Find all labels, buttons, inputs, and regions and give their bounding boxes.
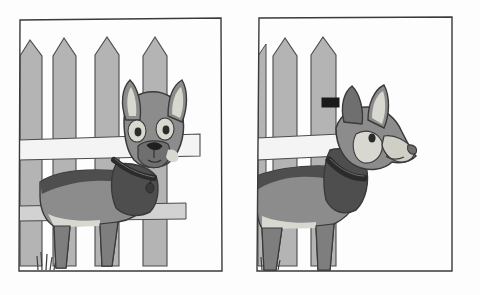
dog-nose — [408, 145, 417, 154]
dog-tag-link — [150, 179, 151, 184]
illustration-canvas: Two-panel illustration of a dog behind a… — [0, 0, 480, 295]
dog-eye — [163, 126, 170, 135]
fence-placard — [322, 98, 339, 107]
dog-collar-tag — [146, 183, 154, 193]
dog-eye — [135, 128, 142, 137]
dog-eye — [368, 133, 375, 142]
dog-cheek-patch — [353, 131, 382, 163]
illustration-artwork — [0, 0, 480, 295]
